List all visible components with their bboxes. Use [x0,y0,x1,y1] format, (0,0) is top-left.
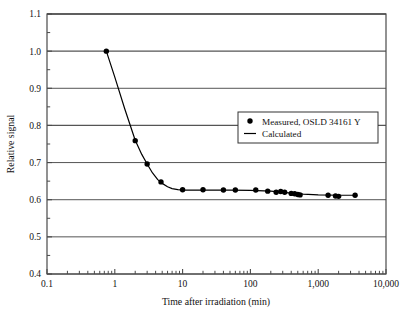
y-tick-label: 1.0 [29,47,41,57]
data-point [336,194,341,199]
data-point [352,193,357,198]
y-tick-label: 0.6 [29,195,41,205]
relative-signal-decay-chart: 0.40.50.60.70.80.91.01.1 0.11101001,0001… [0,0,406,315]
data-point [144,161,149,166]
data-point [233,187,238,192]
data-point [104,48,109,53]
y-axis-title: Relative signal [5,114,16,173]
data-point [297,192,302,197]
data-point [158,179,163,184]
data-point [133,138,138,143]
x-tick-label: 0.1 [41,279,53,289]
y-tick-label: 0.7 [29,158,41,168]
y-tick-label: 1.1 [29,9,41,19]
data-point [325,193,330,198]
x-tick-label: 1 [112,279,117,289]
data-point [273,190,278,195]
data-point [265,188,270,193]
legend-entry-label: Measured, OSLD 34161 Y [262,117,361,127]
data-point [282,190,287,195]
data-point [253,187,258,192]
chart-legend: Measured, OSLD 34161 YCalculated [238,112,378,143]
data-point [200,187,205,192]
y-tick-label: 0.9 [29,84,41,94]
x-tick-label: 100 [243,279,258,289]
chart-container: 0.40.50.60.70.80.91.01.1 0.11101001,0001… [0,0,406,315]
x-tick-label: 10,000 [373,279,399,289]
x-axis-title: Time after irradiation (min) [162,296,270,308]
y-tick-label: 0.5 [29,232,41,242]
x-tick-label: 10 [178,279,188,289]
chart-background [0,0,406,315]
legend-entry-label: Calculated [262,129,302,139]
x-tick-label: 1,000 [308,279,330,289]
data-point [221,187,226,192]
y-tick-label: 0.4 [29,269,41,279]
y-tick-label: 0.8 [29,121,41,131]
data-point [180,187,185,192]
legend-marker-circle-icon [247,118,252,123]
